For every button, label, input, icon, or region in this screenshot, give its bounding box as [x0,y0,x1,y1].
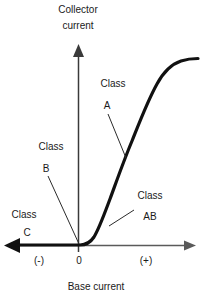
class-ab-leader-line [109,210,134,226]
class-ab-label-line2: AB [143,211,156,223]
class-b-leader-line [48,176,79,244]
diagram-canvas [0,0,201,298]
x-axis-tick-origin: 0 [76,255,82,267]
class-a-label-line2: A [104,100,111,112]
x-axis-right-arrow-icon [184,241,196,251]
class-a-leader-line [108,114,126,158]
transistor-class-diagram: Collector current Class A Class B Class … [0,0,201,298]
y-axis-title-line2: current [62,20,93,32]
class-ab-label-line1: Class [137,190,162,202]
x-axis-tick-negative: (-) [34,255,44,267]
class-b-label-line2: B [43,163,50,175]
y-axis-up-arrow-icon [73,44,84,57]
class-c-label-line2: C [23,227,30,239]
x-axis-tick-positive: (+) [140,255,153,267]
class-c-label-line1: Class [11,209,36,221]
class-b-label-line1: Class [38,141,63,153]
x-axis-title: Base current [68,281,125,293]
y-axis-title-line1: Collector [58,4,97,16]
class-a-label-line1: Class [100,78,125,90]
